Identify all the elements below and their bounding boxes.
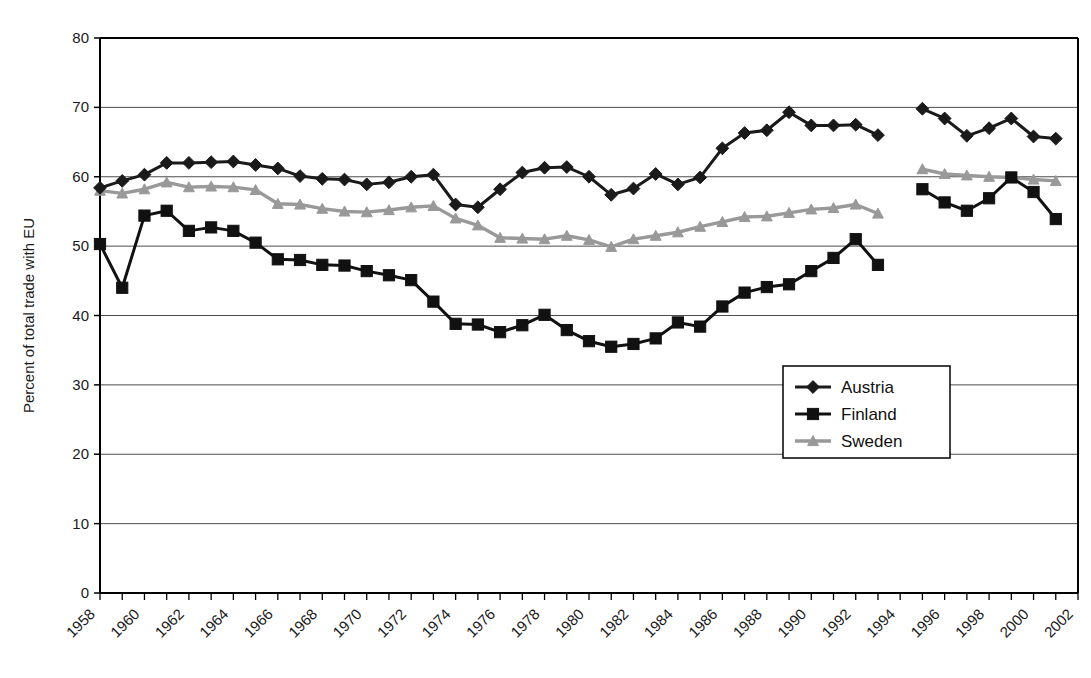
- data-point-finland-1958: [94, 238, 105, 249]
- data-point-finland-1979: [561, 324, 572, 335]
- legend-marker-finland: [807, 408, 818, 419]
- x-tick-label-1992: 1992: [818, 605, 854, 641]
- y-tick-label-10: 10: [72, 515, 89, 532]
- series-austria: [94, 102, 1063, 213]
- y-axis-title: Percent of total trade with EU: [20, 218, 37, 413]
- data-point-austria-1962: [183, 156, 196, 169]
- data-point-austria-1960: [138, 168, 151, 181]
- data-point-austria-1998: [983, 122, 996, 135]
- data-point-austria-1971: [383, 176, 396, 189]
- data-point-austria-1978: [538, 161, 551, 174]
- chart-figure: 0102030405060708019581960196219641966196…: [0, 0, 1091, 678]
- data-point-finland-1972: [406, 275, 417, 286]
- data-point-finland-1973: [428, 296, 439, 307]
- y-tick-label-50: 50: [72, 237, 89, 254]
- data-point-austria-1963: [205, 156, 218, 169]
- data-point-austria-1964: [227, 155, 240, 168]
- series-finland: [94, 172, 1061, 352]
- data-point-austria-1995: [916, 102, 929, 115]
- data-point-finland-1970: [361, 266, 372, 277]
- data-point-finland-1962: [183, 225, 194, 236]
- data-point-austria-1967: [294, 170, 307, 183]
- data-point-finland-1963: [206, 222, 217, 233]
- data-point-austria-1972: [405, 170, 418, 183]
- data-point-austria-1968: [316, 172, 329, 185]
- data-point-finland-1966: [272, 254, 283, 265]
- x-tick-label-1994: 1994: [863, 605, 899, 641]
- x-tick-label-1962: 1962: [151, 605, 187, 641]
- data-point-finland-1999: [1006, 172, 1017, 183]
- x-tick-label-1970: 1970: [329, 605, 365, 641]
- x-tick-label-1976: 1976: [463, 605, 499, 641]
- legend-label-sweden: Sweden: [841, 432, 902, 451]
- data-point-finland-1993: [872, 259, 883, 270]
- data-point-finland-1996: [939, 197, 950, 208]
- data-point-austria-1984: [672, 178, 685, 191]
- data-point-austria-1969: [338, 173, 351, 186]
- data-point-finland-1992: [850, 234, 861, 245]
- data-point-finland-1988: [761, 281, 772, 292]
- data-point-finland-1969: [339, 260, 350, 271]
- legend-label-finland: Finland: [841, 405, 897, 424]
- x-tick-label-2002: 2002: [1041, 605, 1077, 641]
- data-point-finland-1987: [739, 287, 750, 298]
- y-tick-label-70: 70: [72, 98, 89, 115]
- y-tick-label-30: 30: [72, 376, 89, 393]
- x-tick-label-1974: 1974: [418, 605, 454, 641]
- y-tick-label-0: 0: [81, 584, 89, 601]
- data-point-finland-1967: [294, 254, 305, 265]
- data-point-finland-1968: [317, 259, 328, 270]
- x-tick-label-1998: 1998: [952, 605, 988, 641]
- data-point-finland-1990: [806, 266, 817, 277]
- y-tick-label-60: 60: [72, 168, 89, 185]
- data-point-finland-1976: [494, 327, 505, 338]
- line-chart: 0102030405060708019581960196219641966196…: [0, 0, 1091, 678]
- data-point-finland-1964: [228, 225, 239, 236]
- data-point-austria-1961: [160, 156, 173, 169]
- data-point-austria-1993: [872, 129, 885, 142]
- data-point-finland-1981: [606, 341, 617, 352]
- x-tick-label-1980: 1980: [552, 605, 588, 641]
- x-tick-label-1968: 1968: [285, 605, 321, 641]
- x-tick-label-1996: 1996: [907, 605, 943, 641]
- data-point-finland-1971: [383, 270, 394, 281]
- x-tick-label-1958: 1958: [63, 605, 99, 641]
- data-point-finland-1989: [783, 279, 794, 290]
- x-tick-label-1984: 1984: [640, 605, 676, 641]
- x-tick-label-2000: 2000: [996, 605, 1032, 641]
- legend: AustriaFinlandSweden: [783, 366, 950, 458]
- legend-label-austria: Austria: [841, 378, 894, 397]
- x-tick-label-1982: 1982: [596, 605, 632, 641]
- data-point-finland-1959: [117, 282, 128, 293]
- data-point-finland-1995: [917, 184, 928, 195]
- y-axis: 01020304050607080: [72, 29, 100, 601]
- x-tick-label-1964: 1964: [196, 605, 232, 641]
- y-tick-label-20: 20: [72, 445, 89, 462]
- data-point-finland-1980: [583, 336, 594, 347]
- data-point-finland-1974: [450, 318, 461, 329]
- data-point-finland-1982: [628, 338, 639, 349]
- data-point-finland-1975: [472, 319, 483, 330]
- data-point-finland-1983: [650, 333, 661, 344]
- series-line-austria-0: [100, 112, 878, 207]
- data-point-finland-1991: [828, 252, 839, 263]
- y-tick-label-40: 40: [72, 307, 89, 324]
- x-tick-label-1988: 1988: [729, 605, 765, 641]
- data-point-austria-1990: [805, 119, 818, 132]
- x-tick-label-1978: 1978: [507, 605, 543, 641]
- data-point-austria-1991: [827, 119, 840, 132]
- data-point-austria-1970: [360, 178, 373, 191]
- data-point-austria-1966: [271, 162, 284, 175]
- data-point-finland-1998: [983, 193, 994, 204]
- data-point-finland-1984: [672, 317, 683, 328]
- data-point-finland-1960: [139, 210, 150, 221]
- data-point-austria-1992: [849, 118, 862, 131]
- data-point-finland-1997: [961, 205, 972, 216]
- x-tick-label-1972: 1972: [374, 605, 410, 641]
- data-point-finland-1985: [695, 321, 706, 332]
- x-tick-label-1986: 1986: [685, 605, 721, 641]
- data-point-finland-1965: [250, 237, 261, 248]
- data-point-finland-2000: [1028, 186, 1039, 197]
- data-point-finland-1986: [717, 301, 728, 312]
- x-tick-label-1960: 1960: [107, 605, 143, 641]
